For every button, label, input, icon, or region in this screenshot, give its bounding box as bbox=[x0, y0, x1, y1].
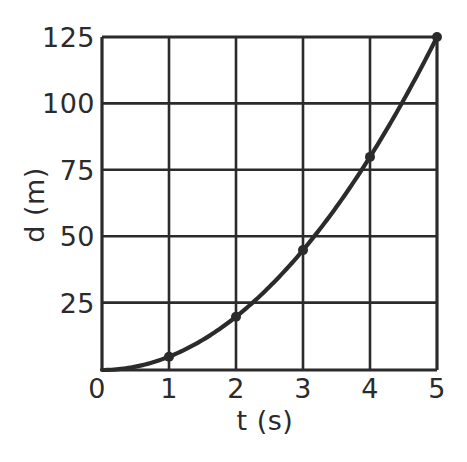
y-tick-label-100: 100 bbox=[42, 88, 95, 119]
data-point-marker bbox=[164, 352, 174, 362]
y-axis-title: d (m) bbox=[19, 167, 50, 243]
x-tick-label-0: 0 bbox=[88, 373, 106, 404]
y-tick-label-25: 25 bbox=[60, 288, 95, 319]
plot-background bbox=[102, 37, 437, 370]
x-tick-labels: 0 1 2 3 4 5 bbox=[88, 373, 446, 404]
distance-time-chart: 125 100 75 50 25 0 1 2 3 4 5 t (s) d (m) bbox=[0, 0, 467, 462]
x-tick-label-2: 2 bbox=[227, 373, 245, 404]
x-tick-label-4: 4 bbox=[361, 373, 379, 404]
x-axis-title: t (s) bbox=[237, 405, 294, 436]
y-tick-label-50: 50 bbox=[60, 221, 95, 252]
data-point-marker bbox=[231, 312, 241, 322]
data-point-marker bbox=[365, 152, 375, 162]
y-tick-label-125: 125 bbox=[42, 22, 95, 53]
x-tick-label-3: 3 bbox=[294, 373, 312, 404]
data-point-marker bbox=[298, 245, 308, 255]
x-tick-label-5: 5 bbox=[428, 373, 446, 404]
y-tick-label-75: 75 bbox=[60, 155, 95, 186]
x-tick-label-1: 1 bbox=[160, 373, 178, 404]
chart-page: 125 100 75 50 25 0 1 2 3 4 5 t (s) d (m) bbox=[0, 0, 467, 462]
data-point-marker bbox=[432, 32, 442, 42]
